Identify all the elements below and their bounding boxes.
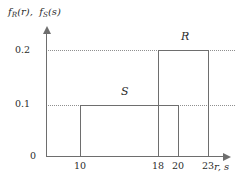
y-tick-label-0: 0 [30, 151, 36, 161]
x-axis-label: r, s [214, 162, 229, 172]
series-label-S: S [121, 86, 129, 97]
y-tick-label-0.1: 0.1 [15, 99, 30, 109]
y-axis-label-f2-arg: (s) [48, 6, 61, 17]
density-rect-R [158, 50, 209, 157]
x-tick-label-10: 10 [74, 161, 86, 171]
y-axis-label-f1-arg: (r), [17, 6, 33, 17]
x-tick-label-18: 18 [152, 161, 164, 171]
x-tick-label-20: 20 [172, 161, 184, 171]
x-tick-label-23: 23 [202, 161, 214, 171]
y-axis-arrow-icon [43, 26, 51, 34]
y-axis-line [46, 33, 47, 157]
y-tick-label-0.2: 0.2 [15, 45, 30, 55]
series-label-R: R [181, 31, 189, 42]
y-axis-label: fR(r), fS(s) [8, 7, 61, 18]
x-axis-arrow-icon [223, 153, 231, 161]
density-chart-figure: fR(r), fS(s) S R 0 0.1 0.2 10 18 20 23 r… [0, 0, 250, 180]
